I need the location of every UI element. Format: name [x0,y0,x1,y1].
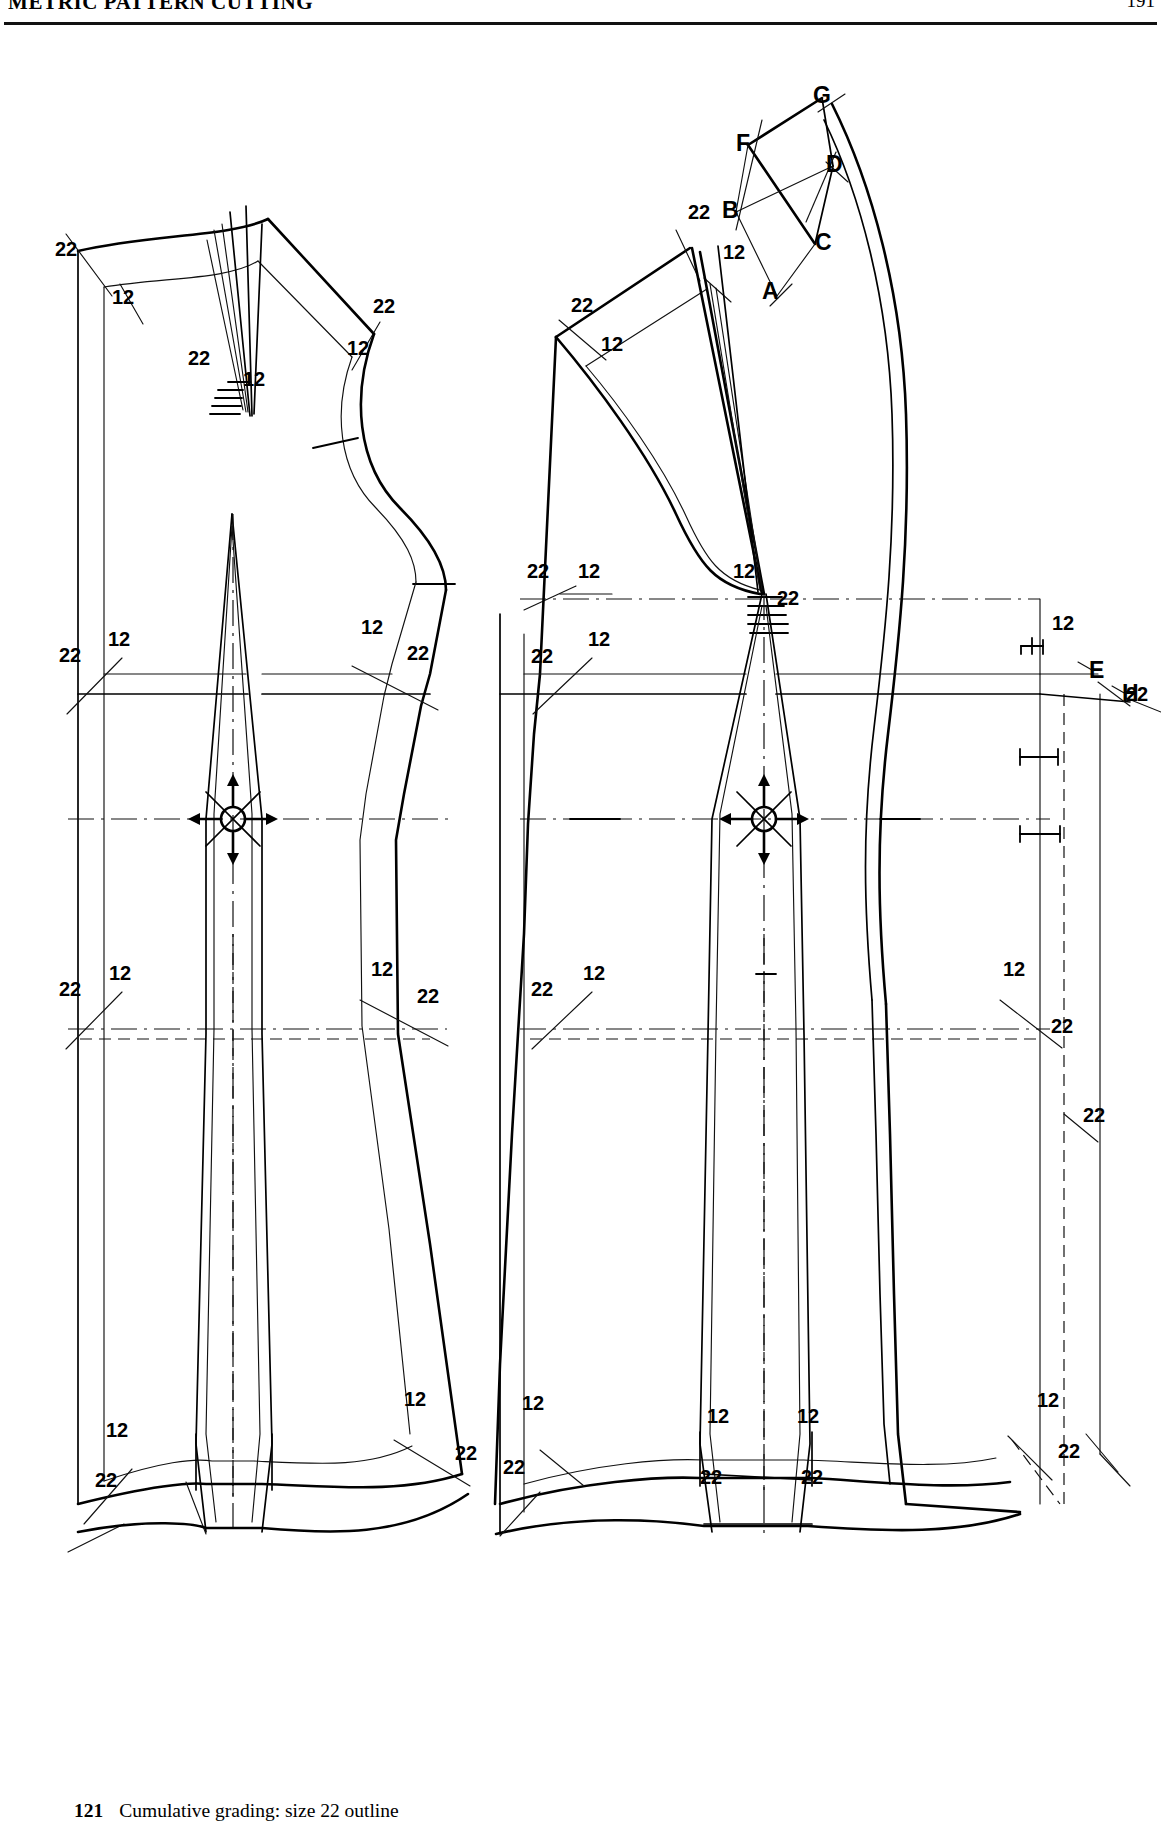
size-label-12: 12 [112,287,134,307]
size-label-22: 22 [59,979,81,999]
size-label-22: 22 [95,1470,117,1490]
size-label-22: 22 [407,643,429,663]
size-label-12: 12 [723,242,745,262]
size-label-22: 22 [531,979,553,999]
size-label-12: 12 [588,629,610,649]
pattern-drawing: .h {fill:none;stroke:#000;stroke-width:2… [0,34,1161,1794]
size-label-12: 12 [733,561,755,581]
running-head: METRIC PATTERN CUTTING 191 [0,0,1161,34]
size-label-12: 12 [522,1393,544,1413]
size-label-12: 12 [361,617,383,637]
point-label-C: C [815,231,832,254]
front-block-group [495,94,1161,1536]
size-label-12: 12 [109,963,131,983]
size-label-12: 12 [243,369,265,389]
grain-balance-mark-back [188,774,278,865]
size-label-22: 22 [1051,1016,1073,1036]
size-label-22: 22 [700,1467,722,1487]
size-label-22: 22 [59,645,81,665]
back-block-group [66,206,470,1552]
size-label-12: 12 [347,338,369,358]
header-rule [4,22,1157,25]
size-label-22: 22 [571,295,593,315]
size-label-22: 22 [503,1457,525,1477]
figure-caption-text: Cumulative grading: size 22 outline [119,1800,398,1821]
point-label-F: F [736,132,750,155]
size-label-12: 12 [108,629,130,649]
point-label-B: B [722,199,739,222]
size-label-12: 12 [404,1389,426,1409]
size-label-12: 12 [371,959,393,979]
book-title: METRIC PATTERN CUTTING [8,0,313,10]
size-label-22: 22 [801,1467,823,1487]
point-label-E: E [1089,659,1104,682]
size-label-12: 12 [1052,613,1074,633]
size-label-22: 22 [527,561,549,581]
size-label-22: 22 [188,348,210,368]
size-label-12: 12 [601,334,623,354]
size-label-12: 12 [1037,1390,1059,1410]
point-label-D: D [826,153,843,176]
size-label-22: 22 [688,202,710,222]
size-label-22: 22 [373,296,395,316]
figure-number: 121 [74,1800,103,1821]
construction-polygon [736,94,848,306]
size-label-22: 22 [1058,1441,1080,1461]
page-number: 191 [1127,0,1156,10]
size-label-22: 22 [55,239,77,259]
size-label-12: 12 [707,1406,729,1426]
size-label-22: 22 [1083,1105,1105,1125]
size-label-12: 12 [1003,959,1025,979]
size-label-22: 22 [1126,684,1148,704]
size-label-22: 22 [417,986,439,1006]
figure-caption: 121Cumulative grading: size 22 outline [74,1800,1074,1822]
size-label-22: 22 [777,588,799,608]
size-label-12: 12 [106,1420,128,1440]
point-label-A: A [762,280,779,303]
size-label-12: 12 [578,561,600,581]
plate-page: METRIC PATTERN CUTTING 191 .h {fill:none… [0,0,1161,1822]
size-label-22: 22 [531,646,553,666]
size-label-22: 22 [455,1443,477,1463]
size-label-12: 12 [583,963,605,983]
size-label-12: 12 [797,1406,819,1426]
point-label-G: G [813,84,831,107]
